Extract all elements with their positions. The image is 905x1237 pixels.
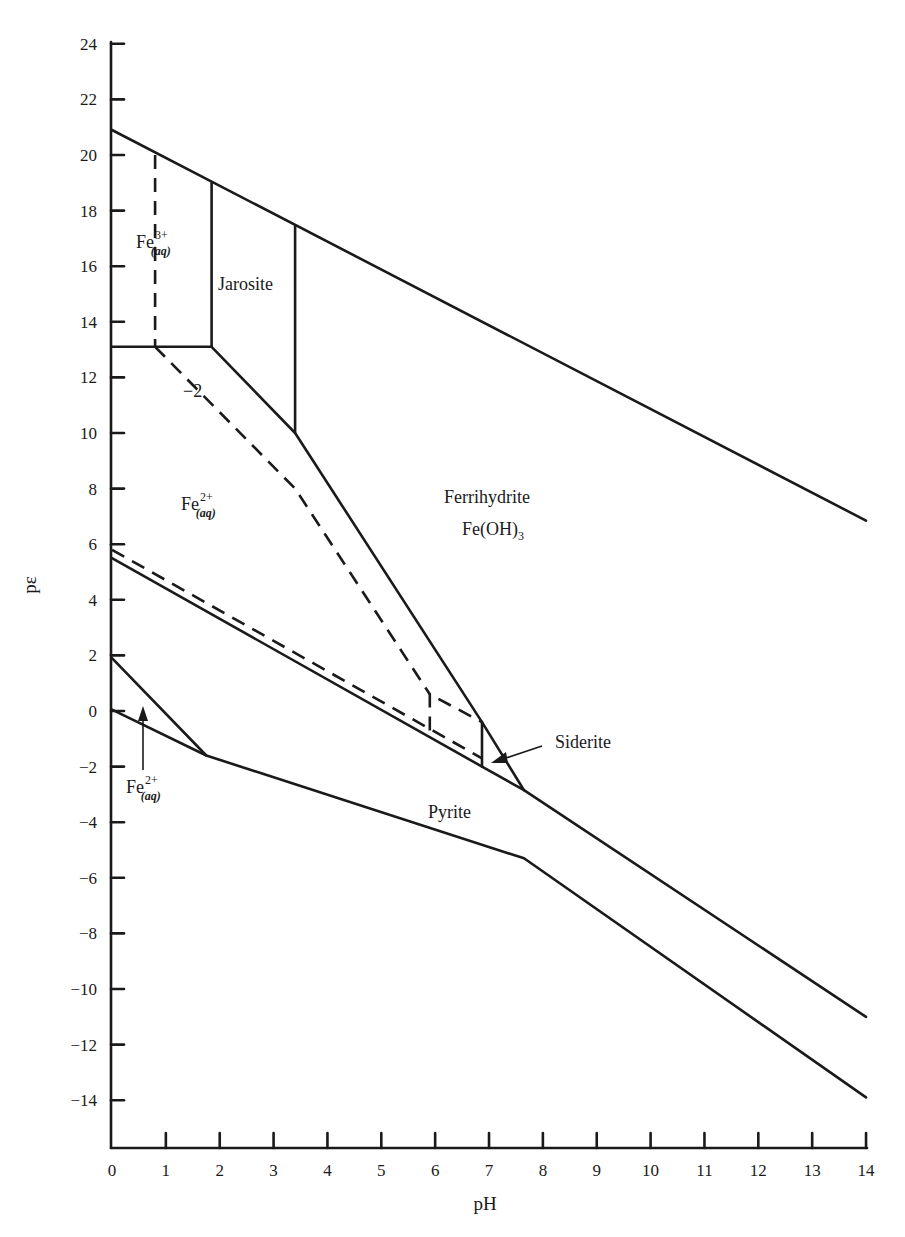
x-tick-label: 3 <box>269 1161 278 1180</box>
label-minus-two: −2 <box>183 381 202 401</box>
label-feoh3: Fe(OH)3 <box>462 519 524 543</box>
x-tick-label: 2 <box>215 1161 224 1180</box>
y-tick-label: 8 <box>89 480 98 499</box>
boundary-line <box>212 347 524 790</box>
x-tick-label: 14 <box>858 1161 876 1180</box>
x-tick-label: 5 <box>377 1161 386 1180</box>
y-tick-label: 6 <box>89 535 98 554</box>
x-tick-label: 10 <box>642 1161 659 1180</box>
y-tick-label: −2 <box>79 758 97 777</box>
axes: 242220181614121086420−2−4−6−8−10−12−14 0… <box>70 35 875 1180</box>
boundary-line <box>112 710 866 1098</box>
x-tick-label: 1 <box>162 1161 171 1180</box>
eh-ph-diagram: 242220181614121086420−2−4−6−8−10−12−14 0… <box>0 0 905 1237</box>
label-pyrite: Pyrite <box>428 802 471 822</box>
y-tick-label: −10 <box>70 980 97 999</box>
boundary-line <box>112 558 866 1017</box>
y-axis-title: pε <box>19 576 40 594</box>
label-jarosite: Jarosite <box>218 274 273 294</box>
y-tick-label: 24 <box>80 35 98 54</box>
label-siderite: Siderite <box>555 732 611 752</box>
y-tick-label: 20 <box>80 146 97 165</box>
x-tick-label: 9 <box>592 1161 601 1180</box>
y-tick-label: −4 <box>79 813 98 832</box>
x-tick-label: 6 <box>431 1161 440 1180</box>
label-fe2-aq-upper: Fe2+(aq) <box>181 490 216 520</box>
x-tick-label: 13 <box>804 1161 821 1180</box>
y-tick-label: 14 <box>80 313 98 332</box>
y-tick-label: 0 <box>89 702 98 721</box>
y-tick-label: 10 <box>80 424 97 443</box>
y-tick-label: 22 <box>80 90 97 109</box>
y-tick-label: −6 <box>79 869 97 888</box>
boundary-line <box>112 658 206 755</box>
x-tick-label: 8 <box>539 1161 548 1180</box>
x-ticks: 01234567891011121314 <box>108 1133 875 1180</box>
y-tick-label: 16 <box>80 257 97 276</box>
x-axis-title: pH <box>473 1193 497 1214</box>
x-tick-label: 4 <box>323 1161 332 1180</box>
boundary-line <box>112 130 866 521</box>
y-tick-label: 4 <box>89 591 98 610</box>
x-tick-label: 11 <box>696 1161 712 1180</box>
boundary-line <box>430 694 482 730</box>
label-ferrihydrite: Ferrihydrite <box>444 487 530 507</box>
y-tick-label: 18 <box>80 202 97 221</box>
fe2-lower-arrow <box>138 706 148 770</box>
x-tick-label: 12 <box>750 1161 767 1180</box>
y-tick-label: −14 <box>70 1091 97 1110</box>
x-tick-label: 7 <box>485 1161 494 1180</box>
y-tick-label: 12 <box>80 368 97 387</box>
y-ticks: 242220181614121086420−2−4−6−8−10−12−14 <box>70 35 124 1110</box>
label-fe2-aq-lower: Fe2+(aq) <box>126 773 161 803</box>
y-tick-label: −8 <box>79 924 97 943</box>
y-tick-label: 2 <box>89 646 98 665</box>
x-tick-label: 0 <box>108 1161 117 1180</box>
label-fe3-aq: Fe3+(aq) <box>136 228 171 258</box>
y-tick-label: −12 <box>70 1036 97 1055</box>
boundary-line <box>112 550 482 759</box>
